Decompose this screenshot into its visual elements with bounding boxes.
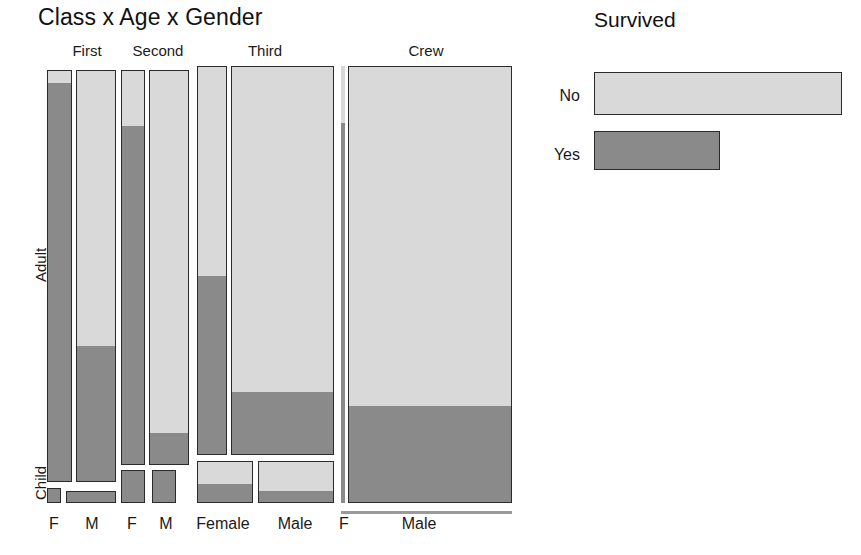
gender-label-first-male: M (76, 515, 108, 533)
segment-survived-yes (198, 484, 252, 502)
gender-label-second-male: M (150, 515, 182, 533)
segment-survived-no (349, 67, 511, 406)
segment-survived-no (150, 71, 188, 433)
tile-third-adult-male[interactable] (231, 66, 334, 455)
tile-first-adult-male[interactable] (76, 70, 116, 482)
segment-survived-yes (341, 123, 345, 503)
segment-survived-yes (259, 491, 333, 502)
gender-label-first-female: F (40, 515, 68, 533)
tile-first-child-male[interactable] (66, 491, 116, 503)
tile-first-adult-female[interactable] (47, 70, 72, 482)
tile-third-adult-female[interactable] (197, 66, 227, 455)
segment-survived-yes (122, 471, 144, 502)
segment-survived-yes (349, 406, 511, 502)
legend-title: Survived (594, 8, 676, 32)
class-label-third: Third (196, 42, 334, 59)
segment-survived-yes (150, 433, 188, 464)
legend-label-yes: Yes (518, 146, 580, 164)
segment-survived-no (48, 71, 71, 83)
segment-survived-yes (122, 126, 144, 464)
tile-third-child-male[interactable] (258, 461, 334, 503)
gender-label-crew-male: Male (386, 515, 452, 533)
class-label-crew: Crew (340, 42, 512, 59)
legend-label-no: No (518, 87, 580, 105)
tile-second-adult-female[interactable] (121, 70, 145, 465)
segment-survived-no (122, 71, 144, 126)
segment-survived-yes (232, 392, 333, 454)
tile-first-child-female[interactable] (47, 488, 61, 503)
tile-crew-adult-male[interactable] (348, 66, 512, 503)
segment-survived-no (232, 67, 333, 392)
tile-third-child-female[interactable] (197, 461, 253, 503)
tile-crew-adult-female[interactable] (341, 66, 345, 503)
segment-survived-no (77, 71, 115, 346)
segment-survived-no (259, 462, 333, 491)
segment-survived-yes (48, 83, 71, 481)
segment-survived-yes (198, 276, 226, 454)
crew-axis-rule (341, 511, 512, 514)
class-label-first: First (46, 42, 128, 59)
segment-survived-no (198, 67, 226, 276)
tile-second-child-female[interactable] (121, 470, 145, 503)
segment-survived-no (198, 462, 252, 484)
gender-label-third-female: Female (188, 515, 258, 533)
legend-swatch-yes[interactable] (594, 131, 720, 170)
gender-label-crew-female: F (332, 515, 356, 533)
segment-survived-yes (48, 489, 60, 502)
legend-swatch-no[interactable] (594, 72, 842, 115)
segment-survived-yes (67, 492, 115, 502)
page-title: Class x Age x Gender (38, 4, 262, 31)
gender-label-third-male: Male (262, 515, 328, 533)
segment-survived-yes (153, 471, 175, 502)
tile-second-adult-male[interactable] (149, 70, 189, 465)
gender-label-second-female: F (118, 515, 146, 533)
segment-survived-no (341, 66, 345, 123)
segment-survived-yes (77, 346, 115, 481)
class-label-second: Second (120, 42, 196, 59)
tile-second-child-male[interactable] (152, 470, 176, 503)
